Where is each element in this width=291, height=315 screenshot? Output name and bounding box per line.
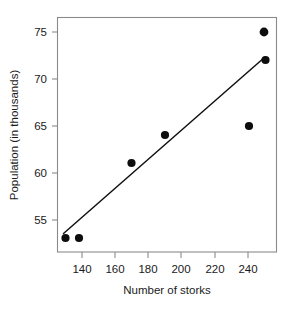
data-point <box>245 122 253 130</box>
y-tick-label-60: 60 <box>34 167 47 179</box>
y-axis-tick-labels: 75 70 65 60 55 <box>34 26 47 226</box>
y-axis-ticks <box>52 32 58 220</box>
y-tick-label-70: 70 <box>34 73 47 85</box>
y-axis-title: Population (in thousands) <box>8 70 20 201</box>
x-axis-ticks <box>82 252 248 258</box>
chart-figure: 75 70 65 60 55 140 160 180 200 220 240 N… <box>0 0 291 315</box>
y-tick-label-65: 65 <box>34 120 47 132</box>
x-tick-label-200: 200 <box>171 263 190 275</box>
data-point <box>61 234 69 242</box>
y-tick-label-75: 75 <box>34 26 47 38</box>
x-tick-label-180: 180 <box>138 263 157 275</box>
y-tick-label-55: 55 <box>34 214 47 226</box>
data-point <box>260 28 269 37</box>
data-point <box>127 159 135 167</box>
data-point <box>161 131 169 139</box>
x-axis-title: Number of storks <box>123 284 211 296</box>
data-points <box>61 28 269 242</box>
x-axis-tick-labels: 140 160 180 200 220 240 <box>72 263 257 275</box>
trend-line <box>64 57 266 234</box>
x-tick-label-240: 240 <box>238 263 257 275</box>
data-point <box>261 56 269 64</box>
x-tick-label-220: 220 <box>205 263 224 275</box>
x-tick-label-160: 160 <box>105 263 124 275</box>
data-point <box>75 234 83 242</box>
x-tick-label-140: 140 <box>72 263 91 275</box>
scatter-plot: 75 70 65 60 55 140 160 180 200 220 240 N… <box>0 0 291 315</box>
